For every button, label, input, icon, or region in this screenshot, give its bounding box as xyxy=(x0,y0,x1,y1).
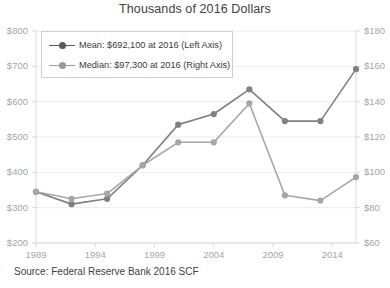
data-point-marker xyxy=(282,192,288,198)
y-axis-left-tick-label: $500 xyxy=(0,131,28,142)
data-point-marker xyxy=(33,189,39,195)
x-axis-tick-label: 1994 xyxy=(75,249,115,260)
data-point-marker xyxy=(175,122,181,128)
data-point-marker xyxy=(353,66,359,72)
x-axis-tick-label: 2004 xyxy=(194,249,234,260)
source-note: Source: Federal Reserve Bank 2016 SCF xyxy=(14,266,199,277)
x-axis-tick-label: 2009 xyxy=(253,249,293,260)
data-point-marker xyxy=(175,139,181,145)
legend-item-mean: Mean: $692,100 at 2016 (Left Axis) xyxy=(49,38,222,52)
data-point-marker xyxy=(68,196,74,202)
legend-item-median: Median: $97,300 at 2016 (Right Axis) xyxy=(49,58,230,72)
y-axis-left-tick-label: $200 xyxy=(0,237,28,248)
legend-marker-icon xyxy=(49,40,75,50)
data-point-marker xyxy=(317,118,323,124)
y-axis-right-tick-label: $60 xyxy=(364,237,390,248)
y-axis-left-tick-label: $300 xyxy=(0,202,28,213)
legend-marker-icon xyxy=(49,60,75,70)
data-point-marker xyxy=(104,190,110,196)
chart-container: Thousands of 2016 Dollars $200$300$400$5… xyxy=(0,0,390,288)
y-axis-right-tick-label: $180 xyxy=(364,25,390,36)
data-point-marker xyxy=(282,118,288,124)
y-axis-right-tick-label: $160 xyxy=(364,60,390,71)
data-point-marker xyxy=(140,162,146,168)
data-point-marker xyxy=(246,100,252,106)
data-point-marker xyxy=(317,198,323,204)
chart-legend: Mean: $692,100 at 2016 (Left Axis) Media… xyxy=(41,31,233,78)
data-point-marker xyxy=(211,111,217,117)
data-point-marker xyxy=(104,196,110,202)
legend-label-mean: Mean: $692,100 at 2016 (Left Axis) xyxy=(79,40,222,50)
series-line xyxy=(36,103,356,200)
y-axis-left-tick-label: $600 xyxy=(0,96,28,107)
y-axis-right-tick-label: $140 xyxy=(364,96,390,107)
y-axis-right-tick-label: $120 xyxy=(364,131,390,142)
x-axis-tick-label: 1989 xyxy=(16,249,56,260)
data-point-marker xyxy=(68,201,74,207)
y-axis-left-tick-label: $700 xyxy=(0,60,28,71)
legend-label-median: Median: $97,300 at 2016 (Right Axis) xyxy=(79,60,230,70)
y-axis-right-tick-label: $100 xyxy=(364,166,390,177)
y-axis-left-tick-label: $800 xyxy=(0,25,28,36)
data-point-marker xyxy=(353,174,359,180)
x-axis-tick-label: 1999 xyxy=(135,249,175,260)
x-axis-tick-label: 2014 xyxy=(312,249,352,260)
y-axis-left-tick-label: $400 xyxy=(0,166,28,177)
y-axis-right-tick-label: $80 xyxy=(364,202,390,213)
data-point-marker xyxy=(246,86,252,92)
data-point-marker xyxy=(211,139,217,145)
